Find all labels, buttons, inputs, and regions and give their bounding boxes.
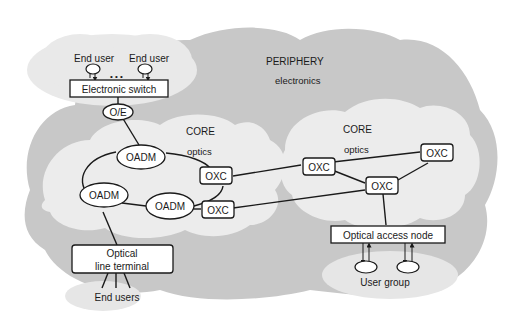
electronic-switch-label: Electronic switch [82,84,156,95]
oadm-left-label: OADM [89,190,119,201]
oxc-right-top-label: OXC [426,148,448,159]
olt-label-line2: line terminal [95,261,149,272]
user-group-label: User group [360,277,410,288]
oxc-mid-label: OXC [308,162,330,173]
core-left-title: CORE [186,126,215,137]
oadm-bottom-label: OADM [155,201,185,212]
olt-label-line1: Optical [106,248,137,259]
user-group-node-1 [355,261,377,273]
oxc-left-top-label: OXC [205,171,227,182]
oxc-right-bottom-label: OXC [371,181,393,192]
network-diagram: PERIPHERY electronics CORE optics CORE o… [0,0,520,327]
user-group-cloud [322,251,458,299]
core-right-title: CORE [343,124,372,135]
core-left-subtitle: optics [187,146,212,157]
end-user-label-1: End user [74,53,115,64]
core-right-subtitle: optics [344,144,369,155]
oadm-top-label: OADM [126,152,156,163]
periphery-title: PERIPHERY [266,56,324,67]
oe-label: O/E [109,107,127,118]
oxc-left-bottom-label: OXC [207,205,229,216]
optical-access-node-label: Optical access node [343,230,433,241]
end-users-label: End users [94,292,139,303]
user-group-node-2 [397,261,419,273]
end-user-node-2 [138,64,152,74]
periphery-subtitle: electronics [275,75,321,86]
end-user-label-2: End user [129,53,170,64]
end-user-node-1 [86,64,100,74]
